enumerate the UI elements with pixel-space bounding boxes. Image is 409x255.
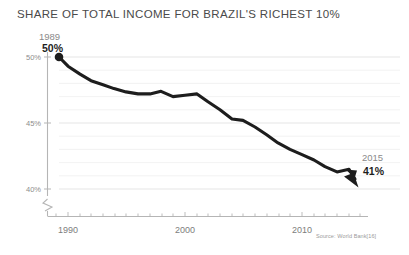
y-tick-label-40: 40% <box>26 185 41 194</box>
source-note: Source: World Bank[16] <box>316 233 376 239</box>
annotation-start-year: 1989 <box>39 31 60 42</box>
x-tick-label-2000: 2000 <box>175 225 195 235</box>
x-tick-label-2010: 2010 <box>292 225 312 235</box>
annotation-end-year: 2015 <box>362 152 383 163</box>
x-axis <box>48 212 369 217</box>
x-tick-label-1990: 1990 <box>58 225 78 235</box>
annotation-end-value: 41% <box>363 165 385 177</box>
y-tick-label-50: 50% <box>26 53 41 62</box>
chart-container: SHARE OF TOTAL INCOME FOR BRAZIL'S RICHE… <box>0 0 409 255</box>
y-tick-label-45: 45% <box>26 119 41 128</box>
annotation-start-value: 50% <box>42 42 64 54</box>
y-axis <box>43 52 52 216</box>
line-chart-plot: 50% 45% 40% 1990 2000 2010 1989 50% 2015… <box>0 0 409 255</box>
data-line-series-1 <box>59 57 355 179</box>
